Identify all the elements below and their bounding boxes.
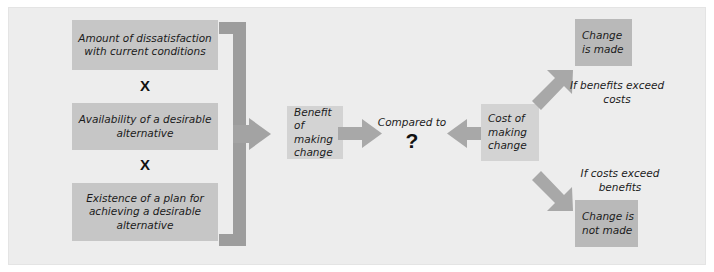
- branch-condition-negative-label: If costs exceed benefits: [565, 167, 675, 194]
- branch-condition-positive: If benefits exceed costs: [565, 78, 669, 108]
- branch-condition-positive-label: If benefits exceed costs: [565, 79, 669, 106]
- factor-label-availability: Availability of a desirable alternative: [76, 113, 214, 140]
- cost-label: Cost of making change: [488, 112, 535, 152]
- benefit-label: Benefit of making change: [294, 106, 339, 160]
- factor-box-plan[interactable]: Existence of a plan for achieving a desi…: [72, 183, 218, 241]
- benefit-box[interactable]: Benefit of making change: [287, 106, 343, 159]
- outcome-label-change-made: Change is made: [582, 29, 628, 56]
- compared-to-label: Compared to: [378, 116, 446, 130]
- factor-box-availability[interactable]: Availability of a desirable alternative: [72, 103, 218, 150]
- factor-label-plan: Existence of a plan for achieving a desi…: [76, 192, 214, 232]
- outcome-box-change-not-made[interactable]: Change is not made: [575, 200, 638, 247]
- brace-right-arrow-icon: [219, 22, 279, 246]
- branch-condition-negative: If costs exceed benefits: [565, 166, 675, 196]
- diagram-panel: Amount of dissatisfaction with current c…: [8, 7, 706, 265]
- diagram-canvas: Amount of dissatisfaction with current c…: [0, 0, 714, 272]
- operator-multiply-2: X: [132, 156, 158, 173]
- outcome-box-change-made[interactable]: Change is made: [575, 19, 632, 66]
- outcome-label-change-not-made: Change is not made: [582, 210, 634, 237]
- operator-multiply-1: X: [132, 77, 158, 94]
- compared-to-node: Compared to ?: [374, 105, 450, 163]
- question-mark-symbol: ?: [406, 130, 419, 152]
- factor-label-dissatisfaction: Amount of dissatisfaction with current c…: [76, 32, 214, 59]
- factor-box-dissatisfaction[interactable]: Amount of dissatisfaction with current c…: [72, 20, 218, 70]
